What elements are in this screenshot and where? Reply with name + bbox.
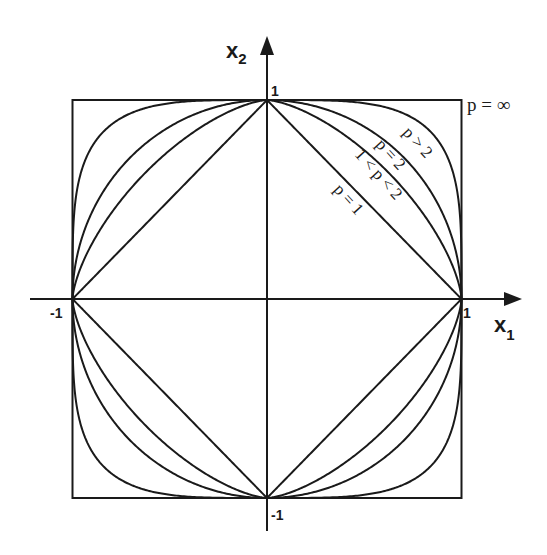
- x-axis-label: x1: [494, 312, 515, 343]
- axes: [30, 52, 506, 531]
- label-p-infinity: p = ∞: [467, 94, 510, 115]
- tick-x-neg: -1: [50, 305, 63, 321]
- p-norm-unit-ball-diagram: x2 x1 1 1 -1 -1 p = ∞ p > 2 p = 2 1 < p …: [0, 0, 547, 555]
- tick-y-neg: -1: [271, 507, 284, 523]
- y-axis-arrow-icon: [260, 36, 274, 55]
- x-axis-arrow-icon: [504, 292, 522, 306]
- y-axis-label: x2: [226, 38, 247, 67]
- tick-x-pos: 1: [463, 305, 471, 321]
- tick-y-pos: 1: [271, 83, 279, 99]
- label-p-equals-1: p = 1: [330, 180, 368, 219]
